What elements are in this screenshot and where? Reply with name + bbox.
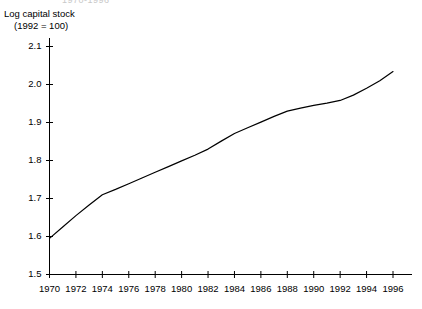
chart-container: 1970-1996 Log capital stock (1992 = 100)…: [0, 0, 422, 309]
y-axis-tick-label: 1.8: [16, 154, 42, 165]
data-series-line: [50, 72, 394, 239]
y-axis-tick-label: 1.9: [16, 116, 42, 127]
y-axis-tick-label: 1.7: [16, 192, 42, 203]
y-axis-tick-label: 1.6: [16, 230, 42, 241]
y-axis-tick-label: 2.1: [16, 40, 42, 51]
y-axis-tick-label: 1.5: [16, 268, 42, 279]
plot-area: [0, 0, 422, 309]
x-axis-tick-label: 1996: [378, 283, 408, 294]
axis-lines: [50, 38, 413, 275]
y-axis-tick-label: 2.0: [16, 78, 42, 89]
